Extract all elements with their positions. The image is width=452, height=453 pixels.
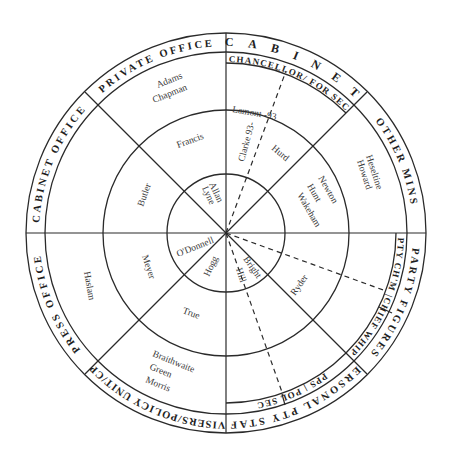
- name-lamont: Lamont -93: [232, 104, 278, 122]
- name-haslam: Haslam: [82, 271, 97, 302]
- name-hogg: Hogg: [202, 254, 220, 278]
- name-ryder: Ryder: [288, 272, 310, 297]
- name-francis: Francis: [175, 131, 205, 150]
- sub-label-pty-chm-chief-whip: PTY CH'M |CHIEF WHIP: [348, 238, 406, 359]
- name-true: True: [181, 305, 201, 320]
- name-hill: Hill: [234, 267, 248, 284]
- dashed-line-personal: [226, 233, 283, 395]
- spoke-top-left: [85, 92, 226, 233]
- government-circles-diagram: C A B I N E T PRIVATE OFFICE CABINET OFF…: [0, 0, 452, 453]
- name-meyer: Meyer: [140, 254, 157, 281]
- name-clarke: Clarke 93-: [236, 121, 256, 163]
- name-hurd: Hurd: [270, 143, 292, 163]
- name-butler: Butler: [135, 181, 153, 208]
- spoke-bottom-right: [226, 233, 367, 374]
